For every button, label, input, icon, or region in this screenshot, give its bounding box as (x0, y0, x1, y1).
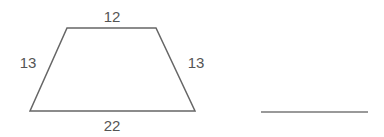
label-right: 13 (188, 54, 205, 71)
trapezoid-diagram: 12 13 13 22 (0, 0, 384, 137)
label-bottom: 22 (104, 117, 121, 134)
trapezoid-shape (30, 28, 195, 111)
label-top: 12 (104, 8, 121, 25)
label-left: 13 (20, 54, 37, 71)
